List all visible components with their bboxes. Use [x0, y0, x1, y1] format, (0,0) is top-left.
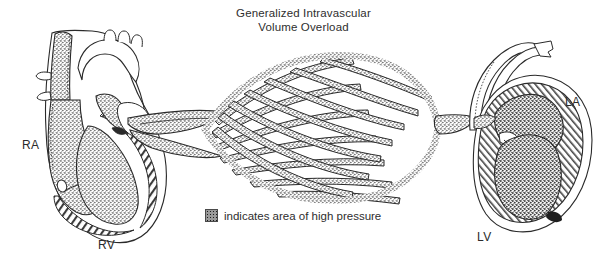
stipple-swatch-icon [205, 209, 218, 222]
left-ventricle-cavity [495, 135, 562, 220]
label-left-ventricle: LV [477, 230, 492, 244]
label-left-atrium: LA [565, 95, 580, 109]
left-heart-group [470, 41, 592, 232]
figure-title-line-2: Volume Overload [0, 20, 607, 34]
figure-title-line-1: Generalized Intravascular [0, 6, 607, 20]
label-right-ventricle: RV [98, 238, 115, 252]
pulmonary-capillary-bed [128, 56, 476, 204]
venous-branch-lower [37, 92, 51, 100]
azygos-branch [36, 72, 51, 80]
figure-title: Generalized Intravascular Volume Overloa… [0, 6, 607, 34]
superior-vena-cava [51, 32, 72, 100]
heart-circulation-diagram [0, 0, 607, 264]
aortic-branch-3 [131, 35, 142, 47]
legend: indicates area of high pressure [205, 209, 381, 222]
label-right-atrium: RA [22, 138, 39, 152]
legend-label: indicates area of high pressure [224, 210, 381, 222]
